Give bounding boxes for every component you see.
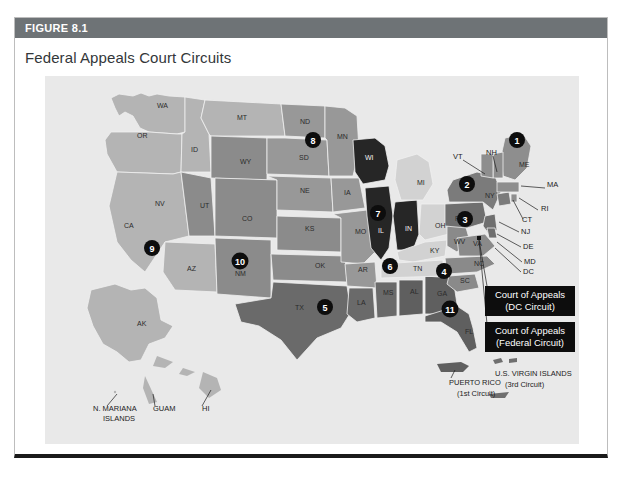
page-title: Federal Appeals Court Circuits	[15, 38, 607, 76]
state-label: CA	[124, 222, 134, 229]
badge-number: 7	[375, 209, 380, 219]
state-label: IN	[405, 225, 412, 232]
mariana-shape	[114, 391, 116, 393]
badge-number: 6	[387, 262, 392, 272]
territory-label: PUERTO RICO	[449, 378, 501, 387]
state-label: UT	[200, 202, 210, 209]
state-al	[399, 280, 423, 316]
circuit-badge-9[interactable]: 9	[144, 240, 160, 256]
badge-number: 10	[235, 257, 245, 267]
state-label: AZ	[187, 265, 197, 272]
leader-label: DC	[523, 267, 534, 276]
figure-label: FIGURE 8.1	[25, 22, 88, 34]
state-ks	[277, 216, 341, 252]
state-label: TX	[295, 304, 304, 311]
state-ct	[497, 192, 511, 206]
badge-number: 2	[464, 180, 469, 190]
state-label: TN	[413, 265, 422, 272]
territory-label: AK	[137, 320, 147, 327]
callout-line-2: (Federal Circuit)	[496, 337, 564, 348]
circuit-badge-3[interactable]: 3	[457, 211, 473, 227]
state-co	[215, 178, 277, 238]
circuit-badge-6[interactable]: 6	[382, 258, 398, 274]
circuit-badge-1[interactable]: 1	[509, 132, 525, 148]
leader-label: CT	[522, 215, 532, 224]
state-label: WV	[454, 238, 466, 245]
territory-label: ISLANDS	[103, 414, 135, 423]
state-label: AR	[358, 266, 368, 273]
state-ms	[375, 282, 397, 318]
callout-federal-circuit[interactable]: Court of Appeals (Federal Circuit)	[485, 322, 575, 352]
state-label: WY	[240, 158, 252, 165]
circuit-badge-2[interactable]: 2	[459, 176, 475, 192]
circuit-badge-7[interactable]: 7	[370, 205, 386, 221]
state-label: OH	[435, 222, 446, 229]
state-label: LA	[357, 299, 366, 306]
badge-number: 3	[462, 215, 467, 225]
state-label: ND	[300, 118, 310, 125]
badge-number: 4	[441, 267, 446, 277]
state-vt	[481, 154, 493, 178]
state-label: ME	[519, 161, 530, 168]
state-label: MO	[355, 228, 367, 235]
state-label: IL	[378, 227, 384, 234]
state-label: MS	[383, 289, 394, 296]
state-ok	[271, 254, 347, 282]
territory-label: GUAM	[153, 404, 176, 413]
callout-line-2: (DC Circuit)	[505, 301, 555, 312]
badge-number: 8	[310, 136, 315, 146]
state-label: NM	[235, 270, 246, 277]
figure-card: FIGURE 8.1 Federal Appeals Court Circuit…	[14, 17, 608, 458]
state-label: MT	[237, 114, 248, 121]
state-label: MN	[337, 133, 348, 140]
state-label: KS	[305, 225, 315, 232]
state-label: SC	[460, 277, 470, 284]
state-ma	[497, 182, 519, 192]
leader-label: MD	[524, 257, 536, 266]
state-wi	[353, 138, 389, 184]
state-label: ID	[191, 146, 198, 153]
state-wy	[211, 136, 267, 180]
state-label: CO	[242, 215, 253, 222]
state-label: OR	[137, 132, 148, 139]
badge-number: 9	[149, 244, 154, 254]
state-ne	[267, 176, 333, 212]
callout-line-1: Court of Appeals	[495, 289, 565, 300]
state-mi	[395, 154, 433, 200]
circuit-badge-10[interactable]: 10	[232, 253, 249, 270]
leader-label: DE	[523, 242, 533, 251]
leader-label: RI	[541, 204, 549, 213]
state-label: NY	[485, 192, 495, 199]
map-container: WA OR ID MT ND SD NE KS OK TX WY UT CO N…	[45, 76, 579, 444]
territory-label: (1st Circuit)	[457, 389, 496, 398]
callout-dc-circuit[interactable]: Court of Appeals (DC Circuit)	[485, 286, 575, 316]
territory-label: N. MARIANA	[93, 404, 137, 413]
state-label: WA	[157, 102, 168, 109]
state-label: NE	[300, 187, 310, 194]
figure-header: FIGURE 8.1	[15, 18, 607, 38]
badge-number: 11	[445, 305, 455, 315]
territory-label: HI	[202, 404, 210, 413]
badge-number: 5	[322, 303, 327, 313]
state-label: KY	[430, 247, 440, 254]
state-label: NC	[474, 260, 484, 267]
leader-label: MA	[547, 180, 558, 189]
territory-label: U.S. VIRGIN ISLANDS	[495, 369, 572, 378]
circuit-badge-8[interactable]: 8	[305, 132, 321, 148]
state-label: MI	[417, 179, 425, 186]
state-label: SD	[299, 154, 309, 161]
circuit-badge-5[interactable]: 5	[317, 299, 333, 315]
federal-circuits-map: WA OR ID MT ND SD NE KS OK TX WY UT CO N…	[45, 76, 579, 444]
state-label: VA	[473, 240, 482, 247]
leader-label: NH	[486, 148, 497, 157]
circuit-badge-11[interactable]: 11	[442, 301, 459, 318]
state-label: FL	[465, 328, 473, 335]
circuit-badge-4[interactable]: 4	[436, 263, 452, 279]
state-label: IA	[344, 189, 351, 196]
state-ri	[511, 194, 517, 202]
callout-line-1: Court of Appeals	[495, 325, 565, 336]
state-label: AL	[410, 288, 419, 295]
badge-number: 1	[514, 136, 519, 146]
territory-label: (3rd Circuit)	[505, 380, 545, 389]
state-label: GA	[437, 290, 447, 297]
